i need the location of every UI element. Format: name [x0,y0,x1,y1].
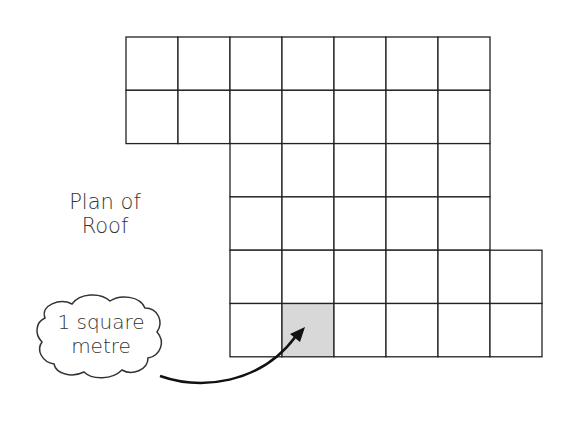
grid-cell [282,197,334,250]
grid-cell [438,250,490,303]
grid-cell [438,144,490,197]
grid-cell [334,304,386,357]
grid-cell [334,144,386,197]
grid-cell [282,144,334,197]
plan-title: Plan of Roof [40,190,170,238]
grid-cell [438,197,490,250]
grid-cell [386,37,438,90]
callout-line1: 1 square [40,310,162,334]
grid-cell [490,304,542,357]
grid-cell [230,304,282,357]
grid-cell [230,250,282,303]
grid-cell [230,197,282,250]
grid-cell [386,90,438,143]
grid-cell [386,197,438,250]
grid-cell [386,304,438,357]
grid-cell [230,37,282,90]
grid-cell [334,37,386,90]
grid-cell [230,144,282,197]
callout-line2: metre [40,334,162,358]
grid-cell [490,250,542,303]
grid-cell [230,90,282,143]
grid-cell [334,90,386,143]
grid-cell [282,250,334,303]
plan-title-line1: Plan of [40,190,170,214]
plan-title-line2: Roof [40,214,170,238]
grid-cell [386,144,438,197]
grid-cell [438,90,490,143]
grid-cell [282,37,334,90]
grid-cell [334,250,386,303]
grid-cell [386,250,438,303]
grid-cell [126,90,178,143]
grid-cell [282,90,334,143]
unit-square-shaded [282,304,334,357]
grid-cell [126,37,178,90]
grid-cell [438,37,490,90]
grid-cell [178,37,230,90]
grid-cell [334,197,386,250]
callout-text: 1 square metre [40,310,162,358]
roof-grid [126,37,542,357]
grid-cell [178,90,230,143]
grid-cell [438,304,490,357]
